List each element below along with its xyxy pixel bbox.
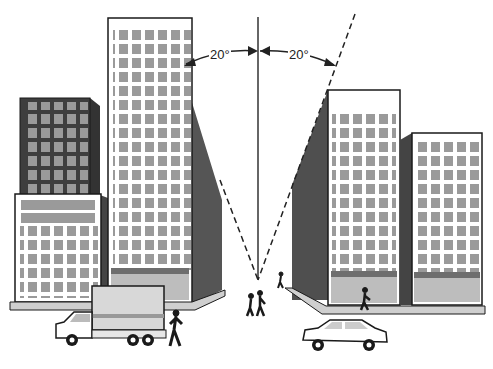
car — [303, 320, 387, 351]
left-angle-label: 20° — [209, 48, 231, 62]
arrowhead-icon — [248, 46, 258, 56]
arrowhead-icon — [324, 58, 336, 66]
arrowhead-icon — [260, 46, 270, 56]
right-angle-label: 20° — [288, 48, 310, 62]
pedestrian-icon — [257, 291, 265, 317]
pedestrian-icon — [278, 272, 283, 288]
pedestrian-icon — [247, 294, 254, 317]
left-sight-line — [220, 180, 258, 280]
right-tall-tower — [292, 90, 400, 305]
pedestrian-icon — [170, 310, 182, 346]
street-diagram — [0, 0, 493, 369]
left-short-dark-tower — [20, 98, 100, 202]
